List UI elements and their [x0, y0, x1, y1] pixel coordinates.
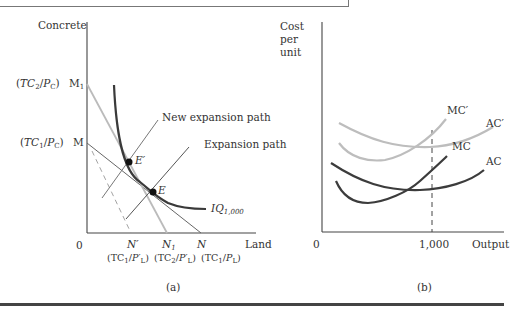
ac-prime-label: AC′	[486, 118, 504, 129]
new-expansion-path-label: New expansion path	[162, 112, 271, 123]
mc-prime-curve	[339, 119, 446, 160]
x-tick-tc1-pl-prime: (TC1/P′L)	[107, 253, 149, 265]
panel-a-graphics	[87, 22, 256, 233]
point-e-prime-label: E′	[135, 155, 145, 166]
mc-prime-label: MC′	[447, 105, 468, 116]
diagram-canvas	[0, 0, 524, 314]
point-n-label: N	[197, 239, 206, 250]
x-tick-1000: 1,000	[419, 239, 449, 250]
isoquant-label: IQ1,000	[211, 203, 244, 216]
point-e-prime-marker	[126, 159, 133, 166]
panel-a-origin: 0	[76, 240, 83, 251]
dashed-budget-line	[92, 151, 131, 233]
point-e-label: E	[158, 185, 166, 196]
point-n1-label: N1	[162, 239, 176, 252]
ac-curve	[331, 163, 484, 190]
point-e-marker	[150, 189, 157, 196]
panel-b-graphics	[322, 22, 504, 232]
ac-label: AC	[486, 156, 502, 167]
mc-curve	[336, 156, 447, 203]
panel-b-origin: 0	[313, 239, 320, 250]
point-m1-label: M1	[69, 78, 84, 91]
x-tick-tc1-pl: (TC1/PL)	[201, 253, 241, 265]
y-axis-label-concrete: Concrete	[38, 20, 87, 31]
panel-b-caption: (b)	[417, 282, 432, 293]
expansion-path-label: Expansion path	[204, 139, 286, 150]
mc-label: MC	[452, 141, 471, 152]
y-axis-label-cost-per-unit: Cost per unit	[280, 20, 320, 59]
point-m-label: M	[73, 137, 84, 148]
y-tick-tc1-pc: (TC1/PC)	[20, 137, 64, 150]
x-tick-tc2-pl-prime: (TC2/P′L)	[154, 253, 196, 265]
y-tick-tc2-pc: (TC2/PC)	[16, 78, 60, 91]
bottom-rule	[0, 303, 504, 306]
x-axis-label-output: Output	[472, 239, 509, 250]
x-axis-label-land: Land	[245, 239, 272, 250]
budget-line-m1n1	[87, 84, 167, 233]
point-n-prime-label: N′	[127, 239, 139, 250]
panel-a-caption: (a)	[166, 282, 180, 293]
